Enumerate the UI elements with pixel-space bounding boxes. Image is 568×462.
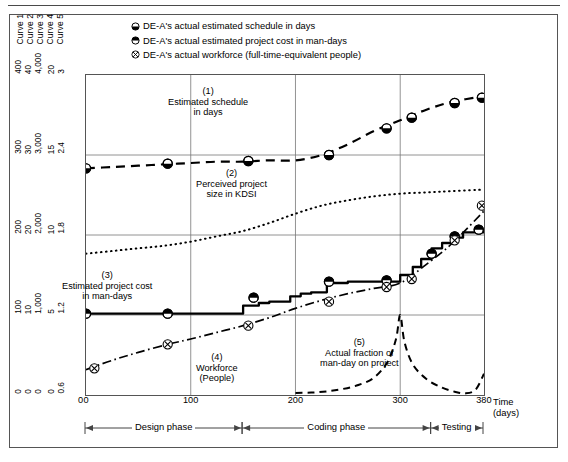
circle-top-half-filled-marker	[163, 309, 172, 318]
y-tick-curve5: 0.6	[57, 382, 65, 394]
y-tick-curve4: 0	[47, 389, 55, 394]
circle-x-marker	[324, 297, 333, 306]
y-tick-curve4: 10	[47, 225, 55, 234]
annotation-2: (2)Perceived projectsize in KDSI	[196, 168, 267, 200]
annotation-3-line2: Estimated project cost	[62, 281, 152, 292]
annotation-2-line2: Perceived project	[196, 179, 267, 190]
legend: DE-A's actual estimated schedule in days…	[131, 19, 471, 62]
annotation-3-line3: in man-days	[62, 291, 152, 302]
annotation-1: (1)Estimated schedulein days	[168, 86, 248, 118]
y-tick-curve5: 1.8	[57, 222, 65, 234]
y-tick-curve1: 0	[14, 389, 22, 394]
circle-top-half-filled-marker	[249, 293, 258, 302]
legend-label-workforce: DE-A's actual workforce (full-time-equiv…	[143, 50, 361, 59]
phase-label-testing: Testing	[439, 422, 475, 431]
y-tick-curve3: 3,000	[34, 133, 42, 154]
curve-axis-title-4: Curve 4	[46, 14, 55, 44]
circle-bottom-half-filled-marker	[382, 124, 391, 133]
legend-item-schedule: DE-A's actual estimated schedule in days	[131, 19, 471, 33]
circle-x-icon	[131, 50, 140, 59]
y-tick-curve3: 0	[34, 389, 42, 394]
x-tick-300: 300	[392, 396, 407, 405]
circle-top-half-filled-icon	[131, 36, 140, 45]
y-tick-curve4: 15	[47, 145, 55, 154]
x-tick-origin: 0	[78, 396, 83, 405]
x-axis-title-line1: Time	[493, 396, 519, 407]
y-tick-curve1: 200	[14, 220, 22, 234]
annotation-1-line2: Estimated schedule	[168, 97, 248, 108]
annotation-5-line2: Actual fraction of	[320, 348, 399, 359]
annotation-5: (5)Actual fraction ofman-day on project	[320, 337, 399, 369]
y-tick-curve1: 100	[14, 300, 22, 314]
circle-x-marker	[477, 201, 484, 210]
circle-bottom-half-filled-marker	[163, 159, 172, 168]
y-tick-curve1: 400	[14, 60, 22, 74]
circle-bottom-half-filled-marker	[324, 150, 333, 159]
phase-label-design: Design phase	[132, 422, 195, 431]
y-tick-row-300: 300303,000152.4	[14, 144, 92, 154]
series-2	[86, 190, 484, 254]
y-tick-curve1: 300	[14, 140, 22, 154]
legend-item-cost: DE-A's actual estimated project cost in …	[131, 33, 471, 47]
phase-bar	[0, 412, 568, 452]
circle-bottom-half-filled-marker	[477, 93, 484, 102]
circle-x-marker	[244, 321, 253, 330]
y-tick-curve5: 2.4	[57, 142, 65, 154]
circle-x-marker	[163, 340, 172, 349]
circle-top-half-filled-marker	[427, 249, 436, 258]
y-tick-row-0: 00000.6	[14, 384, 92, 394]
legend-item-workforce: DE-A's actual workforce (full-time-equiv…	[131, 47, 471, 61]
y-tick-curve2: 20	[24, 225, 32, 234]
y-tick-row-400: 400404,000203	[14, 64, 92, 74]
circle-bottom-half-filled-marker	[86, 164, 91, 173]
top-horizontal-rule	[8, 5, 560, 6]
y-tick-curve4: 20	[47, 65, 55, 74]
circle-top-half-filled-marker	[474, 225, 483, 234]
plot-area	[85, 74, 485, 396]
circle-x-marker	[90, 364, 99, 373]
legend-label-schedule: DE-A's actual estimated schedule in days	[143, 21, 315, 30]
curve-axis-title-2: Curve 2	[26, 14, 35, 44]
circle-bottom-half-filled-marker	[407, 113, 416, 122]
y-tick-curve3: 2,000	[34, 213, 42, 234]
y-tick-row-200: 200202,000101.8	[14, 224, 92, 234]
x-tick-0: 0	[83, 396, 88, 405]
annotation-2-line1: (2)	[196, 168, 267, 179]
annotation-5-line3: man-day on project	[320, 358, 399, 369]
y-tick-curve3: 1,000	[34, 293, 42, 314]
annotation-4-line3: (People)	[196, 373, 238, 384]
annotation-4-line1: (4)	[196, 352, 238, 363]
y-tick-curve2: 0	[24, 389, 32, 394]
curve-axis-title-5: Curve 5	[56, 14, 65, 44]
curve-axis-title-3: Curve 3	[36, 14, 45, 44]
x-tick-380: 380	[476, 396, 491, 405]
circle-x-marker	[382, 282, 391, 291]
legend-label-cost: DE-A's actual estimated project cost in …	[143, 36, 347, 45]
annotation-4: (4)Workforce(People)	[196, 352, 238, 384]
x-tick-200: 200	[288, 396, 303, 405]
circle-top-half-filled-marker	[86, 309, 91, 318]
annotation-1-line1: (1)	[168, 86, 248, 97]
circle-bottom-half-filled-marker	[450, 98, 459, 107]
circle-x-marker	[407, 274, 416, 283]
annotation-3-line1: (3)	[62, 270, 152, 281]
y-tick-curve2: 30	[24, 145, 32, 154]
annotation-5-line1: (5)	[320, 337, 399, 348]
x-tick-100: 100	[183, 396, 198, 405]
circle-top-half-filled-marker	[324, 277, 333, 286]
y-tick-curve2: 40	[24, 65, 32, 74]
y-tick-curve4: 5	[47, 309, 55, 314]
y-tick-curve5: 3	[57, 69, 65, 74]
circle-bottom-half-filled-icon	[131, 22, 140, 31]
circle-x-marker	[450, 236, 459, 245]
phase-label-coding: Coding phase	[304, 422, 368, 431]
annotation-3: (3)Estimated project costin man-days	[62, 270, 152, 302]
annotation-4-line2: Workforce	[196, 363, 238, 374]
y-tick-row-100: 100101,00051.2	[14, 304, 92, 314]
circle-bottom-half-filled-marker	[244, 156, 253, 165]
y-tick-curve2: 10	[24, 305, 32, 314]
y-tick-curve3: 4,000	[34, 53, 42, 74]
series-1	[86, 96, 484, 168]
curve-axis-title-1: Curve 1	[16, 14, 25, 44]
annotation-2-line3: size in KDSI	[196, 189, 267, 200]
